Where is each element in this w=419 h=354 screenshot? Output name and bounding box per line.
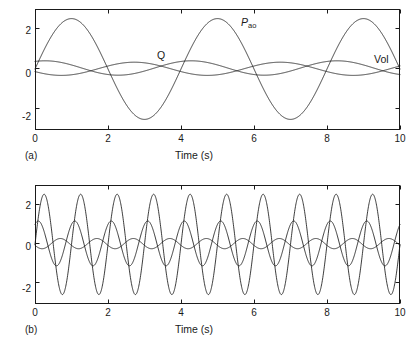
xtick-label-b-2: 2 <box>97 308 119 318</box>
xtick-label-b-10: 10 <box>389 308 411 318</box>
curve-label-pao: Pao <box>241 17 256 29</box>
figure-root: 2 0 -2 0 2 4 6 8 10 Time (s) (a) Pao Q V… <box>0 0 419 354</box>
xaxis-title-b: Time (s) <box>175 324 213 335</box>
plot-area-a <box>35 9 400 130</box>
xtick-label-a-6: 6 <box>243 134 265 144</box>
series-line-P_ao <box>35 19 400 120</box>
ytick-label-b-0: 0 <box>5 242 31 252</box>
panel-a: 2 0 -2 0 2 4 6 8 10 Time (s) (a) Pao Q V… <box>0 0 419 177</box>
xtick-label-a-2: 2 <box>97 134 119 144</box>
plot-canvas-a <box>35 9 400 130</box>
xtick-label-a-8: 8 <box>316 134 338 144</box>
xtick-label-b-6: 6 <box>243 308 265 318</box>
ytick-label-a-2: 2 <box>5 26 31 36</box>
xtick-label-b-0: 0 <box>24 308 46 318</box>
xaxis-title-a: Time (s) <box>175 150 213 161</box>
plot-canvas-b <box>35 185 400 304</box>
panel-tag-b: (b) <box>25 324 37 335</box>
plot-area-b <box>35 185 400 304</box>
panel-b: 2 0 -2 0 2 4 6 8 10 Time (s) (b) <box>0 177 419 354</box>
xtick-label-b-8: 8 <box>316 308 338 318</box>
series-line-Q <box>35 61 400 75</box>
panel-tag-a: (a) <box>25 150 37 161</box>
series-line-Vol <box>35 62 400 75</box>
ytick-label-b-neg2: -2 <box>5 284 31 294</box>
ytick-label-a-0: 0 <box>5 69 31 79</box>
curve-label-pao-text: P <box>241 16 248 28</box>
curve-label-pao-subscript: ao <box>248 21 256 30</box>
xtick-label-b-4: 4 <box>170 308 192 318</box>
xtick-label-a-0: 0 <box>24 134 46 144</box>
curve-label-vol: Vol <box>374 54 389 65</box>
xtick-label-a-4: 4 <box>170 134 192 144</box>
curve-label-q: Q <box>157 50 165 61</box>
xtick-label-a-10: 10 <box>389 134 411 144</box>
series-line-P_ao <box>35 194 400 294</box>
ytick-label-a-neg2: -2 <box>5 112 31 122</box>
ytick-label-b-2: 2 <box>5 201 31 211</box>
